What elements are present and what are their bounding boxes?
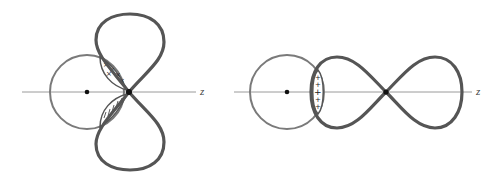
nucleus-p-left [126, 89, 132, 95]
plus-signs: + + + + + [314, 74, 322, 111]
z-axis-label-left: z [199, 85, 205, 97]
nucleus-s-right [285, 90, 290, 95]
p-orbital-lower-lobe [96, 92, 164, 170]
left-diagram: z × × × × × [22, 14, 205, 170]
nucleus-s-left [85, 90, 90, 95]
right-diagram: z + + + + + [234, 55, 481, 129]
orbital-overlap-figure: z × × × × × z [0, 0, 500, 178]
p-orbital-upper-lobe [96, 14, 164, 92]
nucleus-p-right [383, 89, 388, 94]
svg-text:+: + [315, 103, 321, 111]
z-axis-label-right: z [475, 85, 481, 97]
